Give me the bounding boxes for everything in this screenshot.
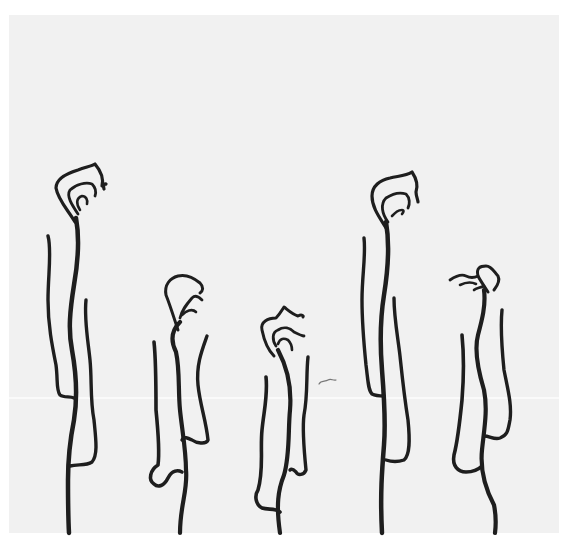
figure-5 <box>450 266 511 533</box>
line-drawing <box>0 0 568 540</box>
figure-4 <box>362 172 418 533</box>
artwork-canvas <box>0 0 568 540</box>
figure-3 <box>256 307 308 533</box>
figure-1 <box>48 164 106 533</box>
stray-mark <box>319 379 336 384</box>
figure-2 <box>151 275 208 533</box>
